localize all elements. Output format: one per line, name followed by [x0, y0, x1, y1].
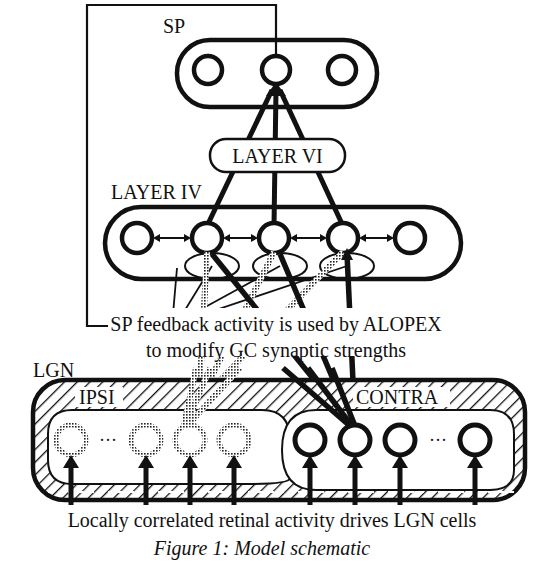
contra-ellipsis: ··· [429, 430, 447, 450]
ipsi-label: IPSI [79, 386, 115, 408]
figure-caption: Figure 1: Model schematic [153, 537, 371, 560]
sp-label: SP [163, 15, 185, 37]
retina-caption: Locally correlated retinal activity driv… [68, 509, 477, 532]
layer-iv-neuron [259, 223, 289, 253]
layer-iv-neuron [395, 223, 425, 253]
layer-iv-label: LAYER IV [111, 181, 202, 203]
lgn-label: LGN [33, 359, 74, 381]
sp-neuron [262, 56, 290, 84]
contra-label: CONTRA [356, 386, 439, 408]
layer-vi-label: LAYER VI [232, 145, 323, 167]
feedback-text-line2: to modify GC synaptic strengths [146, 339, 406, 362]
sp-neuron [194, 56, 222, 84]
layer-vi-box: LAYER VI [210, 139, 345, 172]
layer-iv [105, 207, 461, 279]
layer-iv-neuron [328, 223, 358, 253]
layer-iv-neuron [122, 223, 152, 253]
feedback-text-line1: SP feedback activity is used by ALOPEX [110, 313, 442, 336]
sp-neuron [328, 56, 356, 84]
model-schematic-diagram: SP LAYER VI LAYER IV [0, 0, 553, 586]
lgn-ipsi-neurons: ··· [56, 425, 249, 455]
ipsi-ellipsis: ··· [99, 430, 117, 450]
layer-iv-neuron [192, 223, 222, 253]
